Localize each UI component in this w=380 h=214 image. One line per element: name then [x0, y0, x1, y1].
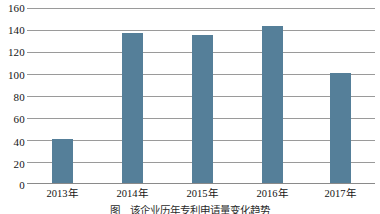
figure-caption: 图该企业历年专利申请量变化趋势 [0, 205, 380, 214]
y-axis-tick-label: 160 [0, 3, 25, 14]
y-axis-tick-label: 60 [0, 114, 25, 125]
figure-caption-number: 图 [110, 205, 120, 214]
y-axis-tick-label: 20 [0, 159, 25, 170]
figure-caption-text: 该企业历年专利申请量变化趋势 [130, 205, 270, 214]
bar-2017 [330, 73, 351, 183]
plot-area [27, 8, 375, 184]
x-axis-tick-label-2017: 2017年 [305, 188, 375, 200]
y-axis-tick-label: 0 [0, 180, 25, 191]
y-axis-tick-label: 140 [0, 25, 25, 36]
x-axis-tick-label-2016: 2016年 [237, 188, 307, 200]
y-axis-tick-label: 80 [0, 92, 25, 103]
bar-chart: 160 140 120 100 80 60 40 20 0 2013年 2014… [0, 0, 380, 214]
x-axis-baseline [27, 183, 375, 184]
gridline-160 [27, 8, 375, 9]
bar-2013 [52, 139, 73, 183]
bar-2016 [262, 26, 283, 184]
y-axis-tick-label: 120 [0, 47, 25, 58]
x-axis-tick-label-2013: 2013年 [27, 188, 97, 200]
x-axis-tick-label-2014: 2014年 [97, 188, 167, 200]
gridline-140 [27, 30, 375, 31]
x-axis-tick-label-2015: 2015年 [167, 188, 237, 200]
y-axis-tick-label: 100 [0, 70, 25, 81]
y-axis-tick-label: 40 [0, 137, 25, 148]
bar-2015 [192, 35, 213, 183]
bar-2014 [122, 33, 143, 183]
